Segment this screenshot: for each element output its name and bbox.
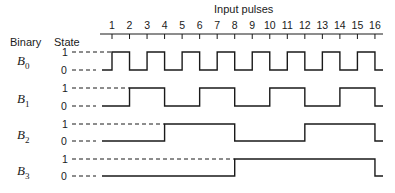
waveform-b1 — [102, 88, 383, 106]
timing-diagram — [0, 0, 395, 193]
waveform-b3 — [102, 159, 383, 176]
waveform-b2 — [102, 124, 383, 141]
waveform-b0 — [102, 52, 383, 70]
